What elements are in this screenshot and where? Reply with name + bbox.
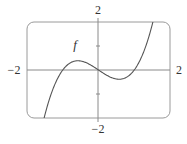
function-label-f: f [73, 37, 79, 52]
x-min-label: −2 [8, 63, 21, 77]
x-max-label: 2 [176, 63, 182, 77]
y-max-label: 2 [95, 3, 101, 17]
function-graph: 2 −2 −2 2 f [0, 0, 187, 144]
y-min-label: −2 [92, 122, 105, 136]
